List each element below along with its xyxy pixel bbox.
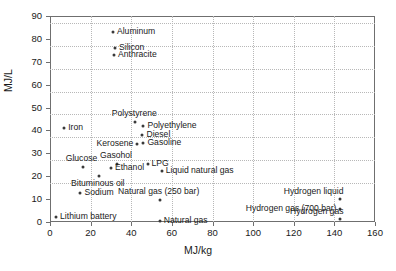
y-axis-title: MJ/L xyxy=(2,69,14,92)
data-point xyxy=(158,199,161,202)
data-point-label: Iron xyxy=(68,123,83,132)
data-point-label: Liquid natural gas xyxy=(166,166,234,175)
data-point xyxy=(142,142,145,145)
x-axis-tick-label: 160 xyxy=(355,227,395,239)
data-point xyxy=(55,216,58,219)
x-axis-tick xyxy=(213,222,214,226)
y-axis-tick xyxy=(46,39,50,40)
data-point xyxy=(339,217,342,220)
data-point xyxy=(81,166,84,169)
x-axis-title: MJ/kg xyxy=(0,244,396,256)
data-point xyxy=(141,134,144,137)
x-axis-tick xyxy=(294,222,295,226)
data-point-label: Aluminum xyxy=(117,27,155,36)
data-point xyxy=(63,127,66,130)
data-point xyxy=(158,219,161,222)
x-axis-tick-label: 20 xyxy=(71,227,111,239)
x-axis-tick xyxy=(334,222,335,226)
y-axis-tick xyxy=(46,85,50,86)
data-point-label: Gasohol xyxy=(100,151,132,160)
y-axis-tick xyxy=(46,199,50,200)
data-point xyxy=(146,162,149,165)
y-axis-tick xyxy=(46,62,50,63)
data-point-label: Anthracite xyxy=(118,50,157,59)
x-axis-tick-label: 140 xyxy=(314,227,354,239)
x-axis-tick xyxy=(131,222,132,226)
data-point xyxy=(136,143,139,146)
x-axis-tick xyxy=(91,222,92,226)
y-axis-tick-label: 0 xyxy=(0,217,42,227)
y-axis-tick xyxy=(46,108,50,109)
energy-density-scatter-chart: 0102030405060708090020406080100120140160… xyxy=(0,0,396,271)
y-axis-tick-label: 40 xyxy=(0,125,42,135)
y-axis-tick xyxy=(46,16,50,17)
x-axis-tick xyxy=(375,222,376,226)
x-axis-tick-label: 60 xyxy=(152,227,192,239)
y-axis-tick-label: 30 xyxy=(0,148,42,158)
x-axis-tick-label: 100 xyxy=(233,227,273,239)
y-axis-tick xyxy=(46,176,50,177)
data-point-label: Hydrogen gas xyxy=(0,207,343,216)
y-axis-tick-label: 20 xyxy=(0,171,42,181)
x-axis-tick xyxy=(253,222,254,226)
x-axis-tick-label: 120 xyxy=(274,227,314,239)
y-axis-tick xyxy=(46,153,50,154)
data-point-label: Ethanol xyxy=(115,163,144,172)
data-point xyxy=(109,167,112,170)
data-point-label: Polystyrene xyxy=(112,109,157,118)
data-point xyxy=(112,53,115,56)
y-axis-tick-label: 90 xyxy=(0,11,42,21)
data-point xyxy=(339,198,342,201)
x-axis-tick-label: 80 xyxy=(193,227,233,239)
data-point-label: Hydrogen liquid xyxy=(0,187,343,196)
y-axis-tick-label: 80 xyxy=(0,34,42,44)
data-point-label: Glucose xyxy=(66,154,98,163)
x-axis-tick-label: 40 xyxy=(111,227,151,239)
data-point-label: Kerosene xyxy=(0,139,133,148)
y-axis-tick-label: 70 xyxy=(0,57,42,67)
data-point xyxy=(134,121,137,124)
y-axis-tick-label: 50 xyxy=(0,103,42,113)
data-point-label: Gasoline xyxy=(147,138,181,147)
x-axis-tick xyxy=(50,222,51,226)
y-axis-tick xyxy=(46,130,50,131)
data-point xyxy=(111,31,114,34)
data-point-label: Natural gas xyxy=(164,216,208,225)
x-axis-tick-label: 0 xyxy=(30,227,70,239)
data-point xyxy=(160,169,163,172)
data-point xyxy=(142,124,145,127)
data-point xyxy=(114,47,117,50)
